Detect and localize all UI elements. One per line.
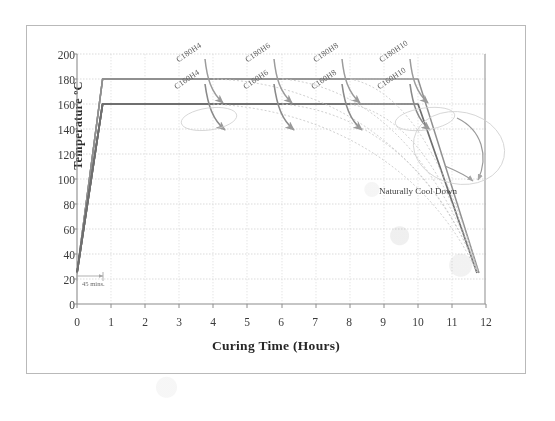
leader-C160H4 bbox=[205, 84, 225, 130]
series-line-C180H6 bbox=[77, 79, 282, 273]
cooling-tails bbox=[213, 79, 478, 272]
figure-frame: Temperature ºC Curing Time (Hours) 200 1… bbox=[26, 25, 526, 374]
leader-C160H6 bbox=[274, 84, 294, 130]
ramp-duration-note: 45 mins. bbox=[82, 280, 105, 287]
label-leaders-160 bbox=[205, 84, 430, 130]
curing-profile-plot bbox=[27, 26, 527, 375]
plot-stage: Temperature ºC Curing Time (Hours) 200 1… bbox=[27, 26, 525, 373]
series-line-C180H8 bbox=[77, 79, 350, 273]
cool-down-arrows bbox=[445, 118, 483, 181]
axis-ticks bbox=[73, 54, 486, 308]
naturally-cool-down-note: Naturally Cool Down bbox=[379, 186, 457, 196]
